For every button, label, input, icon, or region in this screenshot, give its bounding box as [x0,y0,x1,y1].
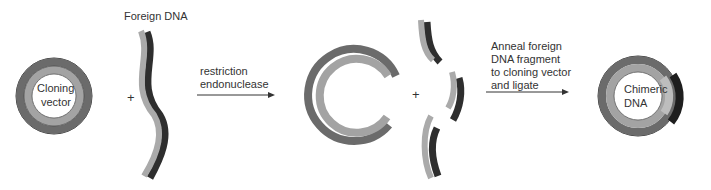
opened-vector [308,49,396,141]
plus-sign-2: + [412,88,420,101]
dna-fragments [421,20,461,178]
cloning-vector-label-1: Cloning [37,82,74,95]
cloning-vector-label-2: vector [41,96,71,109]
chimeric-label-1: Chimeric [624,83,667,96]
chimeric-label-2: DNA [624,97,647,110]
step2-label-3: to cloning vector [491,66,571,79]
step2-label-4: and ligate [491,79,539,92]
cloning-diagram [0,0,711,190]
step2-label-2: DNA fragment [491,53,560,66]
plus-sign-1: + [127,91,135,104]
foreign-dna-label: Foreign DNA [124,10,188,23]
step1-label-2: endonuclease [200,78,269,91]
foreign-dna-strand [141,31,165,178]
step2-label-1: Anneal foreign [491,40,562,53]
step1-label-1: restriction [200,65,248,78]
chimeric-dna-plasmid [598,56,680,136]
